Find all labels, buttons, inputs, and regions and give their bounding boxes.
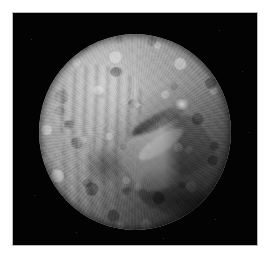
star bbox=[249, 132, 250, 133]
star bbox=[76, 232, 77, 233]
star bbox=[31, 39, 32, 40]
star bbox=[215, 219, 216, 220]
star bbox=[163, 238, 164, 239]
image-page bbox=[0, 0, 276, 257]
star bbox=[34, 195, 35, 196]
star bbox=[219, 30, 220, 31]
photo-frame bbox=[12, 12, 258, 246]
moon-disk bbox=[39, 34, 231, 230]
star bbox=[242, 71, 243, 72]
moon-limb bbox=[39, 34, 231, 230]
